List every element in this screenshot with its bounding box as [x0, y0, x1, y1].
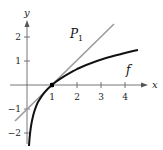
x-tick-label: 2: [74, 92, 80, 102]
y-tick-label: −1: [8, 104, 21, 114]
x-tick-label: 3: [98, 92, 104, 102]
f-label: f: [125, 63, 133, 77]
p1-label: P1: [69, 27, 83, 43]
y-tick-label: 2: [15, 32, 21, 42]
x-tick-label: 1: [49, 92, 55, 102]
tangent-line-p1: [15, 24, 114, 121]
x-axis: [10, 83, 148, 88]
y-axis-label: y: [23, 7, 30, 18]
x-axis-label: x: [152, 79, 158, 90]
x-arrow-icon: [141, 83, 148, 88]
x-tick-label: 4: [122, 92, 128, 102]
y-arrow-icon: [25, 20, 30, 27]
tangent-point: [50, 83, 54, 87]
y-tick-label: 1: [15, 56, 21, 66]
chart: 1 2 3 4 2 1 −1 −2 x y P1 f: [0, 0, 163, 150]
y-axis: [25, 20, 30, 144]
y-tick-label: −2: [8, 128, 21, 138]
